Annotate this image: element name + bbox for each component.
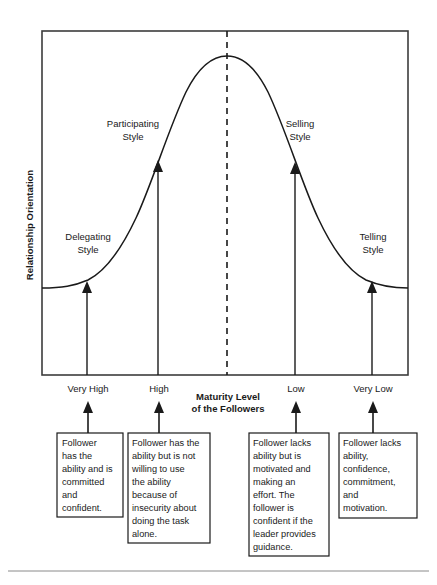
style-label-selling-line2: Style: [289, 131, 310, 142]
callout-line: ability but is not: [132, 451, 196, 461]
callout-line: effort. The: [253, 490, 295, 500]
callout-line: Follower: [62, 438, 97, 448]
callout-line: the ability: [132, 477, 171, 487]
callout-line: insecurity about: [132, 503, 197, 513]
callout-arrowhead-very-high: [83, 401, 93, 413]
callout-line: Follower has the: [132, 438, 199, 448]
callout-line: motivation.: [343, 503, 387, 513]
callout-line: doing the task: [132, 516, 190, 526]
style-label-selling-line1: Selling: [286, 118, 315, 129]
callout-line: Follower lacks: [253, 438, 312, 448]
callout-line: confident if the: [253, 516, 313, 526]
callout-arrowhead-very-low: [368, 401, 378, 413]
arrowhead-participating: [153, 160, 163, 172]
callout-line: confident.: [62, 503, 102, 513]
callout-line: committed: [62, 477, 104, 487]
callout-line: because of: [132, 490, 177, 500]
callout-line: and: [62, 490, 77, 500]
callout-line: willing to use: [131, 464, 185, 474]
callout-line: ability and is: [62, 464, 113, 474]
callout-line: leader provides: [253, 529, 316, 539]
x-axis-title-line1: Maturity Level: [196, 391, 260, 402]
callout-box-high: [128, 433, 210, 543]
callout-arrowhead-low: [291, 401, 301, 413]
tick-label-very-low: Very Low: [353, 383, 392, 394]
tick-label-high: High: [149, 383, 169, 394]
style-label-telling-line2: Style: [362, 244, 383, 255]
callout-line: Follower lacks: [343, 438, 402, 448]
style-label-participating-line1: Participating: [107, 118, 159, 129]
callout-line: has the: [62, 451, 92, 461]
plot-frame: [42, 31, 408, 375]
callout-line: ability but is: [253, 451, 301, 461]
diagram-canvas: Delegating Style Participating Style Sel…: [0, 0, 437, 585]
callout-line: confidence,: [343, 464, 390, 474]
style-label-participating-line2: Style: [122, 131, 143, 142]
callout-line: and: [343, 490, 358, 500]
callout-arrowhead-high: [154, 401, 164, 413]
situational-leadership-diagram: Delegating Style Participating Style Sel…: [0, 0, 437, 585]
tick-label-very-high: Very High: [67, 383, 108, 394]
callout-line: commitment,: [343, 477, 396, 487]
callout-line: ability,: [343, 451, 368, 461]
callout-line: alone.: [132, 529, 157, 539]
callout-line: motivated and: [253, 464, 311, 474]
callout-line: making an: [253, 477, 295, 487]
callout-line: follower is: [253, 503, 294, 513]
y-axis-title: Relationship Orientation: [24, 170, 35, 281]
style-label-telling-line1: Telling: [360, 231, 387, 242]
callout-line: guidance.: [253, 542, 293, 552]
x-axis-title-line2: of the Followers: [192, 403, 265, 414]
style-label-delegating-line1: Delegating: [65, 231, 110, 242]
arrowhead-delegating: [82, 281, 92, 293]
style-label-delegating-line2: Style: [77, 244, 98, 255]
tick-label-low: Low: [287, 383, 305, 394]
